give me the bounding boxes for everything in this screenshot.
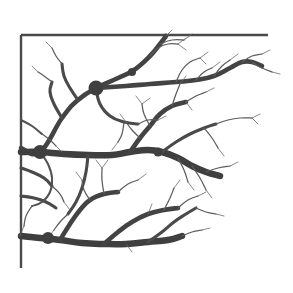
branching-illustration-canvas bbox=[0, 0, 293, 293]
junction-n-mid-fork bbox=[154, 148, 163, 157]
junction-n-low-trunk bbox=[42, 232, 54, 244]
junction-n-mid-trunk bbox=[33, 145, 47, 159]
junction-n-upper-fork bbox=[128, 68, 136, 76]
junction-n-top-trunk bbox=[89, 81, 104, 96]
figure-root bbox=[0, 0, 293, 293]
